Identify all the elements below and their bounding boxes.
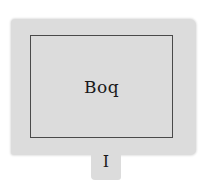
card-number: I — [91, 152, 121, 171]
card-title: Boq — [84, 77, 119, 97]
card-frame[interactable]: Boq — [30, 35, 173, 138]
